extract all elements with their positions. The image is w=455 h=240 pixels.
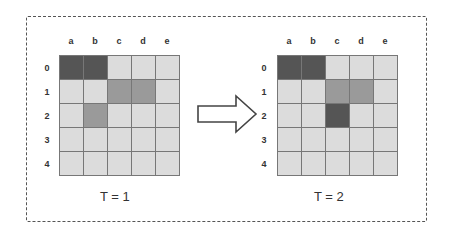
cell-e2	[374, 104, 397, 127]
cell-a0	[60, 56, 83, 79]
cell-c2	[108, 104, 131, 127]
cell-b3	[84, 128, 107, 151]
cell-d2	[132, 104, 155, 127]
row-label: 1	[259, 80, 269, 104]
cell-c4	[326, 152, 349, 175]
cell-b2	[84, 104, 107, 127]
cell-a3	[60, 128, 83, 151]
row-label: 2	[259, 104, 269, 128]
cell-b1	[84, 80, 107, 103]
cell-b4	[84, 152, 107, 175]
row-label: 3	[259, 128, 269, 152]
row-label: 4	[42, 152, 52, 176]
cell-b0	[84, 56, 107, 79]
cell-d2	[350, 104, 373, 127]
cell-e3	[156, 128, 179, 151]
row-label: 0	[42, 56, 52, 80]
cell-b2	[302, 104, 325, 127]
cell-a2	[278, 104, 301, 127]
cell-d1	[350, 80, 373, 103]
cell-e1	[374, 80, 397, 103]
row-label: 3	[42, 128, 52, 152]
col-label: d	[349, 36, 373, 46]
cell-c0	[108, 56, 131, 79]
cell-e1	[156, 80, 179, 103]
cell-c0	[326, 56, 349, 79]
col-label: e	[155, 36, 179, 46]
cell-a4	[278, 152, 301, 175]
cell-e3	[374, 128, 397, 151]
col-label: b	[83, 36, 107, 46]
row-label: 1	[42, 80, 52, 104]
cell-b3	[302, 128, 325, 151]
caption-t1: T = 1	[100, 189, 130, 204]
cell-e2	[156, 104, 179, 127]
cell-c3	[326, 128, 349, 151]
col-label: a	[277, 36, 301, 46]
cell-a1	[60, 80, 83, 103]
cell-e4	[156, 152, 179, 175]
cell-a2	[60, 104, 83, 127]
cell-e0	[374, 56, 397, 79]
caption-t2: T = 2	[314, 189, 344, 204]
cell-a1	[278, 80, 301, 103]
cell-d0	[132, 56, 155, 79]
col-label: c	[107, 36, 131, 46]
right-arrow-outline-icon	[196, 94, 258, 134]
cell-d3	[132, 128, 155, 151]
grid-t2	[277, 55, 398, 176]
col-label: b	[301, 36, 325, 46]
row-labels-t1: 0 1 2 3 4	[42, 56, 52, 176]
cell-e4	[374, 152, 397, 175]
column-labels-t1: a b c d e	[59, 36, 179, 46]
cell-c1	[108, 80, 131, 103]
grid-t1	[59, 55, 180, 176]
row-labels-t2: 0 1 2 3 4	[259, 56, 269, 176]
cell-b0	[302, 56, 325, 79]
cell-c1	[326, 80, 349, 103]
col-label: d	[131, 36, 155, 46]
cell-d0	[350, 56, 373, 79]
cell-d4	[350, 152, 373, 175]
col-label: e	[373, 36, 397, 46]
row-label: 2	[42, 104, 52, 128]
col-label: a	[59, 36, 83, 46]
row-label: 0	[259, 56, 269, 80]
cell-c4	[108, 152, 131, 175]
cell-d4	[132, 152, 155, 175]
cell-c2	[326, 104, 349, 127]
cell-a0	[278, 56, 301, 79]
col-label: c	[325, 36, 349, 46]
row-label: 4	[259, 152, 269, 176]
cell-c3	[108, 128, 131, 151]
cell-a4	[60, 152, 83, 175]
cell-b4	[302, 152, 325, 175]
cell-b1	[302, 80, 325, 103]
cell-d3	[350, 128, 373, 151]
cell-a3	[278, 128, 301, 151]
cell-d1	[132, 80, 155, 103]
column-labels-t2: a b c d e	[277, 36, 397, 46]
cell-e0	[156, 56, 179, 79]
